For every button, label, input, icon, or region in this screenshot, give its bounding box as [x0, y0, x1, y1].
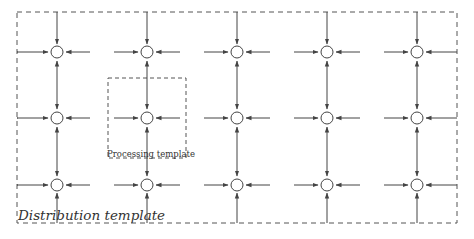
distribution-template-label: Distribution template — [18, 207, 165, 223]
node-circle — [321, 46, 333, 58]
node-circle — [51, 112, 63, 124]
node-circle — [321, 112, 333, 124]
node-circle — [321, 179, 333, 191]
node-circle — [141, 179, 153, 191]
node-circle — [231, 112, 243, 124]
node-circle — [141, 112, 153, 124]
node-circle — [141, 46, 153, 58]
node-circle — [51, 179, 63, 191]
node-circle — [231, 179, 243, 191]
node-circle — [231, 46, 243, 58]
template-diagram — [0, 0, 474, 239]
processing-template-label: Processing template — [107, 149, 195, 159]
node-circle — [411, 46, 423, 58]
node-circle — [411, 179, 423, 191]
node-circle — [411, 112, 423, 124]
node-circle — [51, 46, 63, 58]
